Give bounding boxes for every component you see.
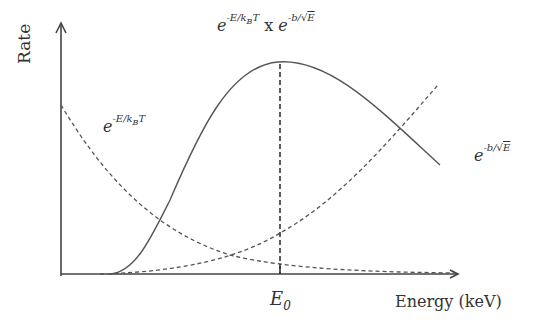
axes: [56, 23, 458, 278]
product-label: e-E/kBT x e-b/√E: [217, 12, 315, 35]
exponent: -E/k: [112, 113, 132, 124]
sqrt-argument: E: [503, 142, 510, 153]
sqrt-argument: E: [307, 12, 314, 23]
exponent: -b/√: [288, 12, 308, 23]
x-axis-label: Energy (keV): [395, 292, 502, 311]
y-axis-label: Rate: [14, 24, 34, 64]
exponent-tail: T: [138, 113, 145, 124]
exponent: -b/√: [483, 142, 503, 153]
exponent: -E/k: [226, 12, 246, 23]
e0-subscript: 0: [283, 299, 291, 313]
base: e: [278, 16, 287, 35]
boltzmann-label: e-E/kBT: [103, 113, 145, 136]
times-symbol: x: [264, 16, 273, 35]
e0-symbol: E: [270, 288, 283, 309]
e0-label: E0: [270, 288, 291, 313]
tunneling-label: e-b/√E: [474, 142, 510, 165]
diagram-canvas: [0, 0, 547, 334]
gamow-peak-curve: [110, 62, 440, 274]
tunneling-curve: [100, 85, 438, 274]
exponent-tail: T: [252, 12, 259, 23]
